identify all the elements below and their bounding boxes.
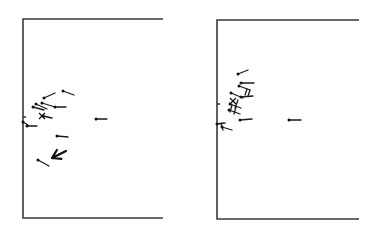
vector-origin-dot <box>95 118 98 121</box>
vector-tail <box>44 93 55 98</box>
vector-origin-dot <box>238 85 241 88</box>
vector-tail <box>238 70 248 74</box>
vector-origin-dot <box>240 96 243 99</box>
vector-origin-dot <box>62 90 65 93</box>
vector-origin-dot <box>239 119 242 122</box>
vector-tail <box>240 119 252 120</box>
vector-origin-dot <box>22 121 25 124</box>
vector <box>26 125 38 128</box>
vector-tail <box>42 103 55 107</box>
vector-origin-dot <box>54 106 57 109</box>
slash-mark <box>245 89 247 95</box>
vector-origin-dot <box>288 119 291 122</box>
vector-origin-dot <box>216 123 219 126</box>
vector <box>240 82 255 85</box>
vector <box>56 135 69 138</box>
vector <box>37 159 50 167</box>
vector <box>41 102 56 108</box>
panel-left <box>22 19 164 218</box>
cross-marker-icon <box>230 98 236 104</box>
vector-origin-dot <box>37 159 40 162</box>
vector-tail <box>38 160 49 166</box>
vector <box>288 119 302 122</box>
vector <box>62 90 75 96</box>
vector <box>240 96 254 99</box>
vector-origin-dot <box>237 73 240 76</box>
vector-origin-dot <box>43 97 46 100</box>
arrow-icon <box>52 150 66 159</box>
vector <box>43 93 56 100</box>
vector-field-figure <box>0 0 378 231</box>
vector <box>237 70 249 76</box>
vector <box>95 118 108 121</box>
panel-right <box>216 20 360 219</box>
vector-origin-dot <box>41 102 44 105</box>
vector-origin-dot <box>230 92 233 95</box>
vector <box>216 123 226 126</box>
vector-tail <box>63 91 74 95</box>
vector <box>238 85 251 91</box>
vector-origin-dot <box>26 125 29 128</box>
slash-mark <box>248 90 250 96</box>
vector <box>239 119 253 122</box>
vector-tail <box>239 86 250 90</box>
vector-tail <box>241 96 253 97</box>
vector-origin-dot <box>240 82 243 85</box>
vector-tail <box>57 136 68 137</box>
vector-origin-dot <box>32 106 35 109</box>
vector-origin-dot <box>56 135 59 138</box>
vector-origin-dot <box>35 103 38 106</box>
vector <box>54 106 67 109</box>
